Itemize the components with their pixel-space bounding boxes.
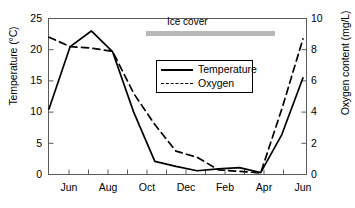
x-axis-tick-dec: Dec xyxy=(166,181,206,193)
y-axis-right-tick-4: 4 xyxy=(311,105,333,117)
legend-label-oxygen: Oxygen xyxy=(198,77,234,89)
ice-cover-label: Ice cover xyxy=(167,16,208,27)
y-axis-left-tick-10: 10 xyxy=(20,105,42,117)
y-axis-right-tick-2: 2 xyxy=(311,137,333,149)
y-axis-left-tick-15: 15 xyxy=(20,74,42,86)
x-axis-tick-aug: Aug xyxy=(88,181,128,193)
y-axis-left-tick-25: 25 xyxy=(20,12,42,24)
legend: Temperature Oxygen xyxy=(156,60,253,93)
chart-figure: Temperature (°C) Oxygen content (mg/L) 2… xyxy=(0,0,355,208)
y-axis-left-tick-0: 0 xyxy=(20,168,42,180)
y-axis-right-tick-0: 0 xyxy=(311,168,333,180)
y-axis-right-tick-10: 10 xyxy=(311,12,333,24)
y-axis-left-tick-20: 20 xyxy=(20,43,42,55)
x-axis-tick-jun-start: Jun xyxy=(49,181,89,193)
x-axis-tick-oct: Oct xyxy=(127,181,167,193)
y-axis-left-title: Temperature (°C) xyxy=(7,21,19,111)
legend-label-temperature: Temperature xyxy=(198,63,257,75)
x-axis-tick-apr: Apr xyxy=(244,181,284,193)
x-axis-tick-feb: Feb xyxy=(205,181,245,193)
legend-swatch-solid-line-icon xyxy=(161,69,193,71)
y-axis-left-tick-5: 5 xyxy=(20,137,42,149)
ice-cover-bar xyxy=(146,31,275,36)
y-axis-right-tick-6: 6 xyxy=(311,74,333,86)
y-axis-right-tick-8: 8 xyxy=(311,43,333,55)
legend-swatch-dashed-line-icon xyxy=(161,83,193,84)
x-axis-tick-jun-end: Jun xyxy=(283,181,323,193)
y-axis-right-title: Oxygen content (mg/L) xyxy=(339,8,351,118)
